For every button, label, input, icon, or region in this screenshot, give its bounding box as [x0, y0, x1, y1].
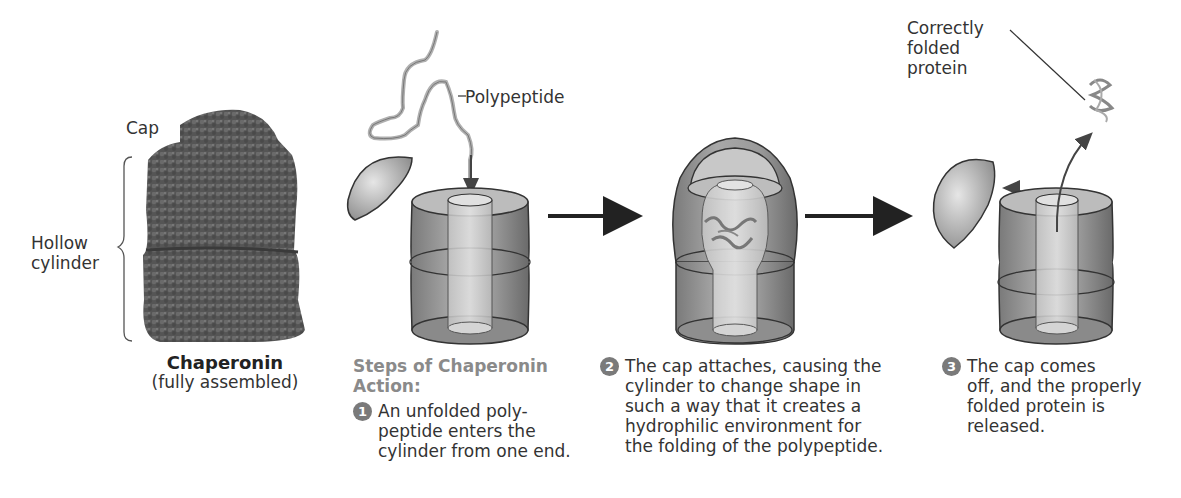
step-1-line: cylinder from one end. [378, 441, 571, 461]
step-2-line: cylinder to change shape in [625, 376, 883, 396]
polypeptide-label: Polypeptide [465, 87, 565, 107]
steps-heading-line1: Steps of Chaperonin [353, 356, 548, 376]
step-2-text: The cap attaches, causing the cylinder t… [625, 356, 883, 456]
step-3-line: released. [967, 416, 1141, 436]
step1-illustration [348, 32, 530, 344]
step-1-text: An unfolded poly- peptide enters the cyl… [378, 401, 571, 461]
step-1-line: An unfolded poly- [378, 401, 571, 421]
step-3-line: off, and the properly [967, 376, 1141, 396]
hollow-cylinder-label-line2: cylinder [31, 253, 99, 273]
step-2-line: hydrophilic environment for [625, 416, 883, 436]
step-3: 3 The cap comes off, and the properly fo… [942, 356, 1141, 436]
bracket [118, 157, 132, 341]
folded-label-line1: Correctly [907, 18, 984, 38]
cap-label: Cap [126, 118, 159, 138]
steps-heading-line2: Action: [353, 376, 548, 396]
folded-label-line2: folded [907, 38, 984, 58]
step-3-text: The cap comes off, and the properly fold… [967, 356, 1141, 436]
step-number-badge: 1 [353, 402, 372, 421]
chaperonin-title: Chaperonin [120, 352, 330, 373]
step-2-line: The cap attaches, causing the [625, 356, 883, 376]
step-2-line: the folding of the polypeptide. [625, 436, 883, 456]
chaperonin-molecule [143, 110, 305, 342]
step-1: 1 An unfolded poly- peptide enters the c… [353, 401, 571, 461]
steps-heading: Steps of Chaperonin Action: [353, 356, 548, 396]
step-number-badge: 3 [942, 357, 961, 376]
hollow-cylinder-label-line1: Hollow [31, 233, 99, 253]
step-2-line: such a way that it creates a [625, 396, 883, 416]
step-1-line: peptide enters the [378, 421, 571, 441]
chaperonin-subtitle: (fully assembled) [120, 372, 330, 392]
hollow-cylinder-label: Hollow cylinder [31, 233, 99, 273]
folded-label-line3: protein [907, 58, 984, 78]
folded-protein [1090, 80, 1112, 122]
correctly-folded-protein-label: Correctly folded protein [907, 18, 984, 78]
step2-illustration [673, 138, 797, 344]
step-3-line: folded protein is [967, 396, 1141, 416]
step-number-badge: 2 [600, 357, 619, 376]
step-2: 2 The cap attaches, causing the cylinder… [600, 356, 883, 456]
step-3-line: The cap comes [967, 356, 1141, 376]
